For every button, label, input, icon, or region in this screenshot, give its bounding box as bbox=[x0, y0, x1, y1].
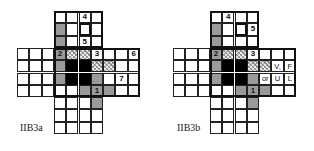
grid-cell bbox=[198, 48, 210, 60]
grid-cell bbox=[185, 73, 197, 85]
grid-cell bbox=[115, 60, 127, 72]
grid-cell bbox=[54, 109, 66, 121]
grid-cell bbox=[247, 97, 259, 109]
grid-cell bbox=[235, 85, 247, 97]
grid-cell bbox=[54, 85, 66, 97]
grid-cell bbox=[222, 85, 234, 97]
cell-label: 5 bbox=[251, 25, 255, 33]
grid-cell bbox=[66, 85, 78, 97]
grid-cell bbox=[210, 60, 222, 72]
grid-cell bbox=[54, 122, 66, 134]
grid-cell bbox=[79, 73, 91, 85]
grid-cell bbox=[17, 48, 29, 60]
grid-cell bbox=[91, 60, 103, 72]
grid-cell bbox=[259, 60, 271, 72]
cell-label: 4 bbox=[226, 13, 230, 21]
grid-cell: 2 bbox=[54, 48, 66, 60]
grid-cell: or bbox=[259, 73, 271, 85]
grid-cell bbox=[54, 60, 66, 72]
grid-cell bbox=[222, 109, 234, 121]
cell-label: 5 bbox=[82, 38, 86, 46]
grid-cell bbox=[210, 36, 222, 48]
grid-cell bbox=[79, 109, 91, 121]
grid-cell: U bbox=[271, 73, 283, 85]
grid-cell bbox=[66, 97, 78, 109]
grid-cell bbox=[91, 73, 103, 85]
grid-cell bbox=[91, 23, 103, 35]
grid-cell: 3 bbox=[91, 48, 103, 60]
grid-cell bbox=[210, 97, 222, 109]
grid-cell bbox=[29, 48, 41, 60]
grid-cell bbox=[210, 23, 222, 35]
grid-cell bbox=[284, 48, 296, 60]
grid-cell bbox=[42, 73, 54, 85]
grid-cell bbox=[198, 73, 210, 85]
grid-cell: L bbox=[284, 73, 296, 85]
cell-label: 1 bbox=[95, 87, 99, 95]
grid-cell bbox=[128, 73, 140, 85]
grid-cell bbox=[29, 60, 41, 72]
grid-cell bbox=[115, 48, 127, 60]
figure-label-a: IIB3a bbox=[20, 122, 43, 133]
grid-cell bbox=[115, 85, 127, 97]
grid-cell: 3 bbox=[247, 48, 259, 60]
grid-cell bbox=[79, 23, 91, 35]
grid-cell bbox=[54, 73, 66, 85]
grid-cell bbox=[29, 85, 41, 97]
grid-cell bbox=[235, 36, 247, 48]
grid-cell bbox=[271, 85, 283, 97]
grid-cell bbox=[54, 23, 66, 35]
grid-cell bbox=[235, 97, 247, 109]
grid-cell bbox=[128, 85, 140, 97]
grid-cell: V, bbox=[271, 60, 283, 72]
grid-cell bbox=[222, 23, 234, 35]
grid-cell: 1 bbox=[247, 85, 259, 97]
grid-cell: 5 bbox=[79, 36, 91, 48]
grid-cell bbox=[235, 23, 247, 35]
grid-cell bbox=[173, 60, 185, 72]
grid-cell bbox=[66, 23, 78, 35]
grid-cell bbox=[235, 48, 247, 60]
grid-cell bbox=[66, 73, 78, 85]
grid-cell bbox=[235, 122, 247, 134]
grid-cell bbox=[54, 11, 66, 23]
grid-cell bbox=[198, 60, 210, 72]
grid-cell bbox=[210, 122, 222, 134]
grid-cell bbox=[17, 60, 29, 72]
grid-cell: 4 bbox=[222, 11, 234, 23]
grid-cell bbox=[66, 36, 78, 48]
grid-cell bbox=[54, 97, 66, 109]
grid-cell bbox=[17, 85, 29, 97]
grid-cell bbox=[66, 122, 78, 134]
cell-label: or bbox=[262, 75, 269, 83]
grid-figure-b: 4523V,ForUL1 bbox=[173, 11, 296, 134]
grid-cell bbox=[79, 48, 91, 60]
grid-cell bbox=[42, 85, 54, 97]
cell-label: L bbox=[288, 75, 292, 83]
grid-cell: 7 bbox=[115, 73, 127, 85]
grid-cell bbox=[79, 122, 91, 134]
grid-cell bbox=[173, 48, 185, 60]
grid-cell bbox=[235, 73, 247, 85]
cell-label: F bbox=[288, 63, 293, 71]
grid-cell bbox=[66, 48, 78, 60]
grid-cell bbox=[222, 97, 234, 109]
grid-cell bbox=[235, 60, 247, 72]
grid-cell bbox=[66, 60, 78, 72]
grid-cell bbox=[173, 73, 185, 85]
cell-label: 2 bbox=[58, 50, 62, 58]
cell-label: 4 bbox=[82, 13, 86, 21]
grid-cell: 6 bbox=[128, 48, 140, 60]
figure-label-b: IIB3b bbox=[177, 122, 200, 133]
grid-cell bbox=[222, 60, 234, 72]
grid-cell bbox=[284, 85, 296, 97]
grid-cell bbox=[247, 11, 259, 23]
grid-cell bbox=[271, 48, 283, 60]
grid-cell bbox=[91, 109, 103, 121]
grid-cell bbox=[42, 48, 54, 60]
grid-cell bbox=[185, 48, 197, 60]
grid-cell bbox=[66, 11, 78, 23]
grid-cell bbox=[103, 60, 115, 72]
grid-cell bbox=[91, 36, 103, 48]
grid-cell bbox=[210, 85, 222, 97]
